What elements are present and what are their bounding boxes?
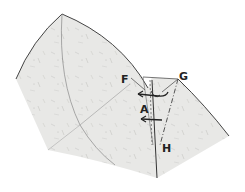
label-f: F: [121, 73, 129, 86]
origami-diagram: F G A H: [0, 0, 245, 192]
paper-shape: [16, 14, 229, 178]
label-a: A: [140, 103, 149, 116]
label-g: G: [179, 70, 188, 83]
label-h: H: [162, 142, 171, 155]
